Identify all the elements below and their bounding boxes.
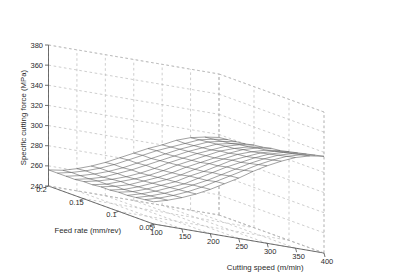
wall-gridline-z-right bbox=[219, 175, 324, 213]
z-tick-label: 380 bbox=[30, 41, 43, 50]
feed-rate-tick-label: 0.15 bbox=[69, 198, 84, 207]
figure-3d-surface-plot: 2402602803003203403603800.050.10.150.210… bbox=[0, 0, 415, 272]
z-tick-label: 360 bbox=[30, 61, 43, 70]
z-axis-title: Specific cutting force (MPa) bbox=[19, 69, 28, 165]
z-tick-label: 280 bbox=[30, 141, 43, 150]
plot-canvas: 2402602803003203403603800.050.10.150.210… bbox=[0, 0, 415, 272]
wall-gridline-z-right bbox=[219, 94, 324, 132]
cutting-speed-tick-label: 350 bbox=[292, 252, 305, 261]
cutting-speed-tick-label: 100 bbox=[150, 228, 163, 237]
feed-rate-tick-label: 0.2 bbox=[36, 185, 46, 194]
feed-rate-tick-label: 0.1 bbox=[106, 210, 116, 219]
z-tick-label: 320 bbox=[30, 101, 43, 110]
z-tick-label: 300 bbox=[30, 121, 43, 130]
cutting-speed-tick-label: 250 bbox=[235, 242, 248, 251]
z-tick-label: 340 bbox=[30, 81, 43, 90]
cutting-speed-tick-label: 150 bbox=[179, 232, 192, 241]
surface-mesh bbox=[49, 137, 325, 202]
feed-rate-axis-title: Feed rate (mm/rev) bbox=[54, 226, 121, 235]
cutting-speed-tick-label: 200 bbox=[207, 237, 220, 246]
box-top-right bbox=[219, 74, 324, 112]
cutting-speed-tick-label: 400 bbox=[321, 257, 334, 266]
cutting-speed-tick-label: 300 bbox=[264, 247, 277, 256]
wall-gridline-z-right bbox=[219, 195, 324, 233]
cutting-speed-axis-title: Cutting speed (m/min) bbox=[227, 263, 304, 272]
z-tick-label: 260 bbox=[30, 161, 43, 170]
